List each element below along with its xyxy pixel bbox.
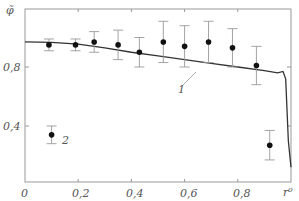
- plot-frame: [25, 9, 291, 182]
- x-tick-0-8: 0,8: [233, 187, 251, 200]
- x-tick-0: 0: [21, 187, 28, 200]
- points-label-2: 2: [61, 134, 69, 147]
- x-tick-0-2: 0,2: [72, 187, 90, 200]
- curve-label-1: 1: [178, 83, 185, 96]
- x-axis-label: r⁰: [283, 186, 293, 199]
- data-points-2: [44, 21, 275, 160]
- y-axis-label: φ̃: [6, 4, 14, 17]
- x-tick-0-4: 0,4: [126, 187, 144, 200]
- chart: φ̃ 0,8 0,4 0 0,2 0,4 0,6 0,8 r⁰ 1 2: [0, 0, 299, 201]
- y-tick-0-4: 0,4: [3, 120, 21, 133]
- curve-1: [25, 42, 291, 167]
- ticks: [25, 9, 291, 182]
- y-tick-0-8: 0,8: [3, 61, 21, 74]
- x-tick-0-6: 0,6: [180, 187, 198, 200]
